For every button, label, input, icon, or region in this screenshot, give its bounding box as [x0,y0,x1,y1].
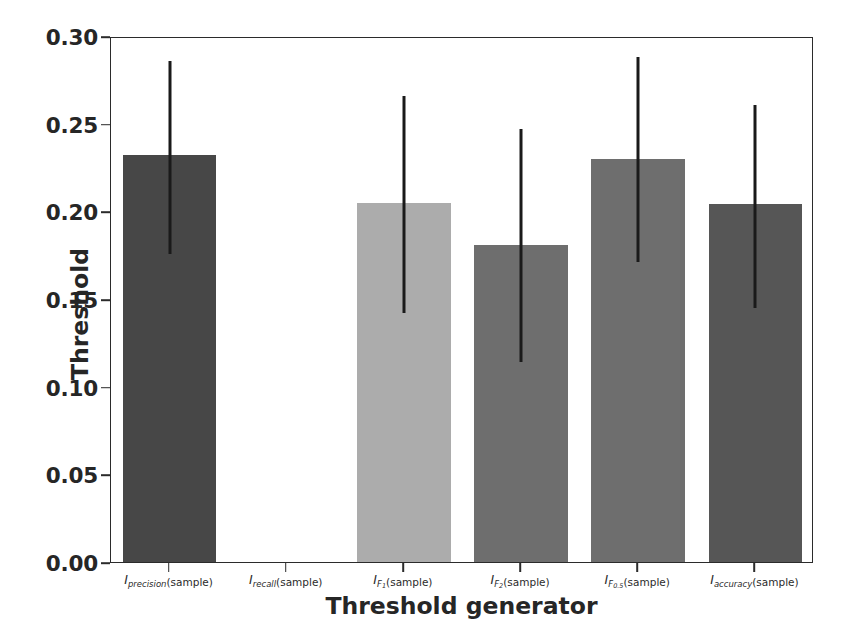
x-tick-mark [754,563,756,572]
figure-canvas: 0.000.050.100.150.200.250.30 Threshold I… [0,0,855,640]
x-tick-mark [285,563,287,572]
y-tick-mark [101,562,110,564]
x-tick-mark [168,563,170,572]
y-tick-mark [101,299,110,301]
x-tick-label: Iaccuracy(sample) [659,572,849,587]
x-tick-mark [636,563,638,572]
error-bar [168,61,171,254]
y-axis-title: Threshold [66,214,94,414]
x-axis-title: Threshold generator [110,592,813,620]
y-tick-label: 0.25 [46,112,98,137]
y-tick-mark [101,387,110,389]
error-bar [637,57,640,262]
y-tick-label: 0.30 [46,25,98,50]
error-bar [754,105,757,308]
y-tick-mark [101,212,110,214]
bars-layer [111,38,812,562]
y-tick-mark [101,36,110,38]
y-tick-mark [101,475,110,477]
y-tick-mark [101,124,110,126]
y-tick-label: 0.05 [46,463,98,488]
error-bar [402,96,405,313]
plot-area [110,37,813,563]
error-bar [520,129,523,362]
x-tick-mark [519,563,521,572]
x-tick-mark [402,563,404,572]
